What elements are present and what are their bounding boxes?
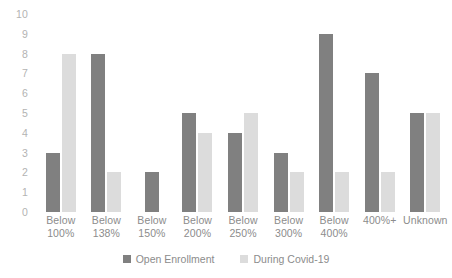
bar — [274, 153, 288, 212]
bar-groups — [38, 14, 448, 212]
bar-group — [84, 14, 130, 212]
x-axis-label: Below 400% — [311, 214, 357, 250]
y-axis: 012345678910 — [0, 0, 38, 212]
x-axis-label: Below 250% — [220, 214, 266, 250]
x-axis: Below 100%Below 138%Below 150%Below 200%… — [38, 214, 448, 250]
y-axis-tick-6: 6 — [22, 88, 28, 99]
y-axis-tick-1: 1 — [22, 187, 28, 198]
legend-label: Open Enrollment — [136, 254, 215, 265]
x-axis-label: Below 300% — [266, 214, 312, 250]
y-axis-tick-2: 2 — [22, 167, 28, 178]
y-axis-tick-10: 10 — [16, 9, 28, 20]
bar-group — [357, 14, 403, 212]
bar — [381, 172, 395, 212]
y-axis-tick-3: 3 — [22, 147, 28, 158]
bar — [91, 54, 105, 212]
legend-item[interactable]: During Covid-19 — [240, 254, 329, 265]
x-axis-label: 400%+ — [357, 214, 403, 250]
chart-legend: Open EnrollmentDuring Covid-19 — [0, 254, 452, 265]
y-axis-tick-5: 5 — [22, 108, 28, 119]
bar — [198, 133, 212, 212]
x-axis-label: Below 138% — [84, 214, 130, 250]
bar-chart: 012345678910 Below 100%Below 138%Below 1… — [0, 0, 452, 278]
bar-group — [311, 14, 357, 212]
bar — [228, 133, 242, 212]
x-axis-label: Below 200% — [175, 214, 221, 250]
bar — [290, 172, 304, 212]
legend-item[interactable]: Open Enrollment — [123, 254, 215, 265]
bar — [365, 73, 379, 212]
bar — [335, 172, 349, 212]
x-axis-label: Below 150% — [129, 214, 175, 250]
bar-group — [129, 14, 175, 212]
legend-swatch-icon — [123, 255, 131, 263]
bar — [426, 113, 440, 212]
bar — [46, 153, 60, 212]
x-axis-label: Unknown — [403, 214, 449, 250]
bar-group — [220, 14, 266, 212]
y-axis-tick-8: 8 — [22, 48, 28, 59]
plot-area — [38, 14, 448, 212]
y-axis-tick-0: 0 — [22, 207, 28, 218]
bar — [319, 34, 333, 212]
x-axis-label: Below 100% — [38, 214, 84, 250]
bar — [244, 113, 258, 212]
legend-swatch-icon — [240, 255, 248, 263]
bar-group — [38, 14, 84, 212]
bar — [107, 172, 121, 212]
bar — [410, 113, 424, 212]
bar-group — [403, 14, 449, 212]
bar — [145, 172, 159, 212]
y-axis-tick-4: 4 — [22, 128, 28, 139]
bar-group — [175, 14, 221, 212]
bar — [62, 54, 76, 212]
y-axis-tick-7: 7 — [22, 68, 28, 79]
bar-group — [266, 14, 312, 212]
legend-label: During Covid-19 — [253, 254, 329, 265]
bar — [182, 113, 196, 212]
y-axis-tick-9: 9 — [22, 29, 28, 40]
